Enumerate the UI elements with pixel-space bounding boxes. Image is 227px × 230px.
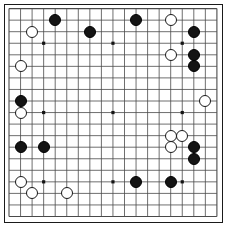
black-stone[interactable] [188, 49, 200, 61]
black-stone[interactable] [49, 14, 61, 26]
white-stone[interactable] [165, 49, 177, 61]
black-stone[interactable] [130, 176, 142, 188]
black-stone[interactable] [188, 141, 200, 153]
black-stone[interactable] [84, 26, 96, 38]
white-stone[interactable] [15, 60, 27, 72]
white-stone[interactable] [165, 141, 177, 153]
black-stone[interactable] [130, 14, 142, 26]
black-stone[interactable] [38, 141, 50, 153]
white-stone[interactable] [61, 187, 73, 199]
white-stone[interactable] [26, 187, 38, 199]
white-stone[interactable] [165, 130, 177, 142]
black-stone[interactable] [188, 153, 200, 165]
black-stone[interactable] [188, 60, 200, 72]
white-stone[interactable] [15, 176, 27, 188]
black-stone[interactable] [15, 141, 27, 153]
go-board-app: Go board position 13 12 [0, 0, 227, 230]
white-stone[interactable] [199, 95, 211, 107]
black-stone[interactable] [188, 26, 200, 38]
white-stone[interactable] [26, 26, 38, 38]
white-stone[interactable] [165, 14, 177, 26]
black-stone[interactable] [165, 176, 177, 188]
stone-layer[interactable] [0, 0, 227, 230]
white-stone[interactable] [176, 130, 188, 142]
white-stone[interactable] [15, 107, 27, 119]
black-stone[interactable] [15, 95, 27, 107]
